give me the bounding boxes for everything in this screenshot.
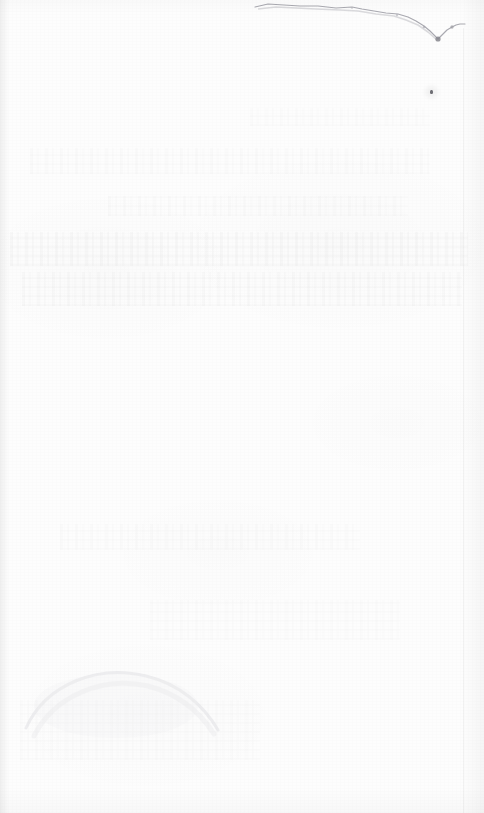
bleed-through-band xyxy=(150,600,400,640)
bleed-through-band xyxy=(108,196,408,216)
bleed-through-band xyxy=(10,232,468,266)
bleed-through-band xyxy=(250,108,430,126)
left-edge-shadow xyxy=(0,0,9,813)
bleed-through-band xyxy=(22,272,462,306)
dark-speck xyxy=(430,90,433,94)
arc-smudge xyxy=(20,650,230,750)
bleed-through-band xyxy=(60,524,360,550)
scanned-page xyxy=(0,0,484,813)
top-edge-shadow xyxy=(0,0,484,14)
bottom-edge-shadow xyxy=(0,787,484,813)
right-edge-line xyxy=(463,28,464,813)
right-edge-shadow xyxy=(462,0,484,813)
bleed-through-band xyxy=(30,148,430,174)
